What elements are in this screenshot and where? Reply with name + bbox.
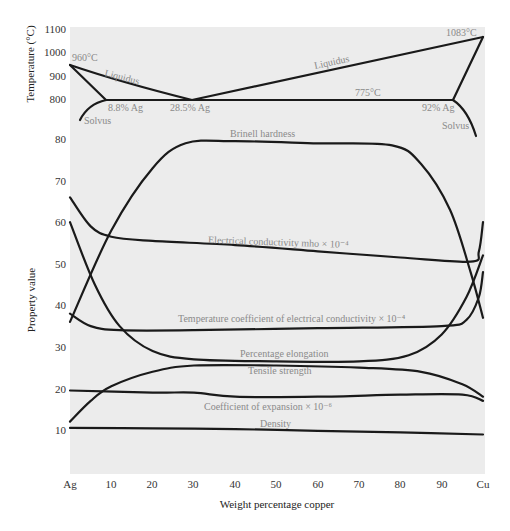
label-960c: 960°C xyxy=(72,52,98,63)
y-tick-70: 70 xyxy=(55,175,67,187)
x-tick-10: 10 xyxy=(106,478,118,490)
x-tick-60: 60 xyxy=(313,478,325,490)
alloy-property-chart: Temperature (°C) 1100 1000 900 800 960°C… xyxy=(0,0,510,531)
y-tick-50: 50 xyxy=(55,258,67,270)
copper-x-ticks: Ag102030405060708090Cu xyxy=(63,478,490,490)
tick-800: 800 xyxy=(50,93,67,105)
x-tick-40: 40 xyxy=(230,478,242,490)
x-tick-20: 20 xyxy=(147,478,159,490)
x-tick-50: 50 xyxy=(271,478,283,490)
label-solvus-left: Solvus xyxy=(84,115,111,126)
temperature-axis-label: Temperature (°C) xyxy=(24,25,37,103)
label-temperature-coefficient: Temperature coefficient of electrical co… xyxy=(178,313,406,324)
property-y-ticks: 8070605040302010 xyxy=(55,133,67,436)
x-tick-30: 30 xyxy=(188,478,200,490)
y-tick-60: 60 xyxy=(55,216,67,228)
y-tick-30: 30 xyxy=(55,341,67,353)
temperature-ticks: 1100 1000 900 800 xyxy=(44,23,67,105)
x-tick-70: 70 xyxy=(354,478,366,490)
x-tick-90: 90 xyxy=(437,478,449,490)
label-coefficient-of-expansion: Coefficient of expansion × 10⁻⁶ xyxy=(204,401,333,412)
y-tick-10: 10 xyxy=(55,424,67,436)
tick-1100: 1100 xyxy=(44,23,66,35)
y-tick-80: 80 xyxy=(55,133,67,145)
y-tick-20: 20 xyxy=(55,383,67,395)
label-28-5-ag: 28.5% Ag xyxy=(170,102,210,113)
label-92-ag: 92% Ag xyxy=(422,102,455,113)
label-8-8-ag: 8.8% Ag xyxy=(108,102,143,113)
x-tick-80: 80 xyxy=(395,478,407,490)
label-brinell-hardness: Brinell hardness xyxy=(230,128,295,139)
tick-1000: 1000 xyxy=(44,46,67,58)
label-density: Density xyxy=(260,418,291,429)
x-axis-label: Weight percentage copper xyxy=(220,498,335,510)
label-solvus-right: Solvus xyxy=(442,120,469,131)
label-percentage-elongation: Percentage elongation xyxy=(240,348,329,359)
label-1083c: 1083°C xyxy=(446,27,477,38)
tick-900: 900 xyxy=(50,70,67,82)
x-tick-cu: Cu xyxy=(477,478,490,490)
label-775c: 775°C xyxy=(355,87,381,98)
property-axis-label: Property value xyxy=(25,268,37,333)
y-tick-40: 40 xyxy=(55,299,67,311)
label-tensile-strength: Tensile strength xyxy=(248,365,311,376)
x-tick-ag: Ag xyxy=(63,478,77,490)
